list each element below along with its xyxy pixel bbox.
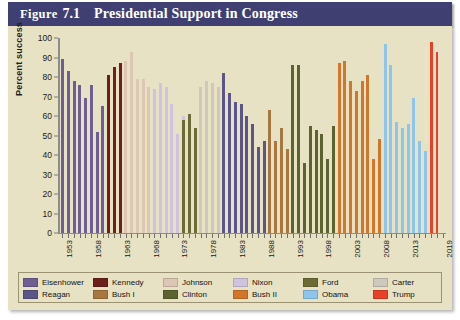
x-tick-mark [368,234,369,238]
legend-swatch [373,278,388,287]
x-tick-label: 1988 [267,240,276,258]
legend-item[interactable]: Clinton [163,290,233,299]
x-tick-mark [299,234,300,238]
x-tick-label: 1983 [238,240,247,258]
legend-item[interactable]: Reagan [23,290,93,299]
bar [170,104,173,233]
legend-label: Reagan [42,290,70,299]
x-tick-mark [408,234,409,238]
legend-swatch [233,290,248,299]
legend-label: Bush I [112,290,135,299]
y-tick-label: 10 [43,209,52,219]
bar [309,126,312,233]
bar [257,147,260,233]
x-tick-label: 1993 [296,240,305,258]
y-tick-label: 20 [43,189,52,199]
x-tick-label: 2008 [382,240,391,258]
x-tick-mark [385,234,386,238]
x-tick-mark [143,234,144,238]
legend-label: Clinton [182,290,207,299]
bar [436,52,439,233]
bar [395,122,398,233]
bar [130,52,133,233]
figure-panel: Percent success 0102030405060708090100 1… [8,26,452,310]
x-tick-mark [443,234,444,238]
legend-item[interactable]: Kennedy [93,278,163,287]
x-tick-mark [402,234,403,238]
bar [280,128,283,233]
legend-item[interactable]: Trump [373,290,443,299]
figure-number: 7.1 [63,6,81,22]
bar [384,44,387,233]
x-tick-mark [281,234,282,238]
bar [182,120,185,233]
legend-swatch [23,290,38,299]
legend-item[interactable]: Bush I [93,290,163,299]
legend-swatch [373,290,388,299]
legend-label: Bush II [252,290,277,299]
figure-label: Figure [20,7,58,22]
bar [378,139,381,233]
bar [84,98,87,233]
legend-item[interactable]: Carter [373,278,443,287]
legend-item[interactable]: Obama [303,290,373,299]
legend-swatch [303,290,318,299]
bar [326,159,329,233]
bar [343,61,346,233]
bar [297,65,300,233]
bar [245,116,248,233]
legend-label: Kennedy [112,278,144,287]
x-tick-mark [252,234,253,238]
x-tick-mark [206,234,207,238]
x-tick-mark [270,234,271,238]
x-tick-mark [166,234,167,238]
x-tick-mark [172,234,173,238]
x-tick-mark [293,234,294,238]
bar [361,81,364,233]
x-tick-mark [437,234,438,238]
x-tick-mark [379,234,380,238]
bar [286,149,289,233]
bar [73,81,76,233]
bar [263,141,266,233]
bar [315,130,318,233]
bar [61,59,64,233]
bar [430,42,433,233]
x-tick-mark [350,234,351,238]
x-tick-mark [345,234,346,238]
x-tick-label: 1963 [123,240,132,258]
x-tick-mark [391,234,392,238]
x-tick-mark [131,234,132,238]
legend-label: Carter [392,278,414,287]
bar [407,124,410,233]
y-axis-ticks: 0102030405060708090100 [22,38,58,233]
chart-legend: EisenhowerKennedyJohnsonNixonFordCarter … [18,272,442,303]
bar [107,75,110,233]
x-tick-mark [103,234,104,238]
x-tick-mark [356,234,357,238]
legend-item[interactable]: Nixon [233,278,303,287]
bar [119,63,122,233]
x-tick-mark [373,234,374,238]
bar [268,110,271,233]
x-tick-mark [339,234,340,238]
bar [389,65,392,233]
bar [90,85,93,233]
bar [228,93,231,233]
legend-item[interactable]: Johnson [163,278,233,287]
bar [153,89,156,233]
legend-row-1: EisenhowerKennedyJohnsonNixonFordCarter [23,276,437,289]
legend-item[interactable]: Ford [303,278,373,287]
legend-item[interactable]: Bush II [233,290,303,299]
y-tick-label: 90 [43,53,52,63]
legend-item[interactable]: Eisenhower [23,278,93,287]
x-tick-mark [362,234,363,238]
x-axis-labels: 1953195819631968197319781983198819931998… [60,240,446,270]
legend-swatch [303,278,318,287]
legend-label: Eisenhower [42,278,84,287]
legend-label: Obama [322,290,348,299]
bar [142,79,145,233]
bar [113,67,116,233]
x-tick-mark [264,234,265,238]
figure-title-bar: Figure 7.1 Presidential Support in Congr… [8,2,452,26]
